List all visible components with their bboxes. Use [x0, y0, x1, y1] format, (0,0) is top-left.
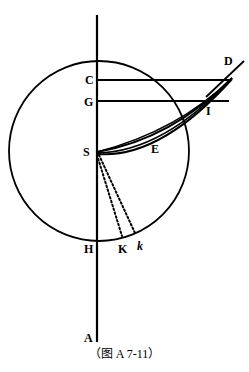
point-label-k-upper: K [118, 243, 127, 255]
point-label-e: E [151, 143, 159, 155]
point-label-i: I [206, 105, 211, 117]
point-label-s: S [83, 146, 90, 158]
figure-container: D C G I S E H K k A （图 A 7-11） [0, 0, 249, 372]
point-label-k-lower: k [137, 240, 143, 252]
point-label-d: D [224, 55, 233, 67]
geometric-diagram [0, 0, 249, 372]
point-label-g: G [84, 96, 93, 108]
point-label-h: H [84, 243, 93, 255]
point-label-a: A [84, 332, 93, 344]
figure-caption: （图 A 7-11） [0, 348, 249, 360]
point-label-c: C [85, 74, 94, 86]
